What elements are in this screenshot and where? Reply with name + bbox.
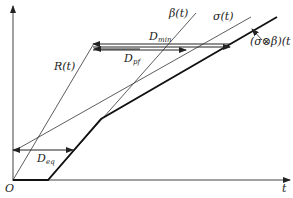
label-beta: β(t)	[168, 7, 188, 20]
label-sigma: σ(t)	[213, 10, 234, 23]
label-convolution: (σ⊗β)(t	[250, 35, 291, 48]
label-d-pf: D pf	[123, 52, 141, 66]
svg-text:D: D	[36, 152, 46, 165]
svg-text:pf: pf	[133, 58, 141, 66]
x-axis-label: t	[282, 182, 287, 195]
svg-text:eq: eq	[46, 158, 55, 166]
curve-sigma	[14, 17, 251, 151]
curve-convolution	[13, 17, 277, 180]
origin-label: O	[5, 182, 14, 195]
svg-text:min: min	[158, 36, 172, 44]
label-d-eq: D eq	[36, 152, 55, 166]
label-d-min: D min	[148, 30, 172, 44]
label-r: R(t)	[53, 60, 75, 73]
svg-text:D: D	[148, 30, 158, 43]
diagram-canvas: R(t) β(t) σ(t) (σ⊗β)(t D min D pf D eq O…	[0, 0, 293, 198]
svg-text:D: D	[123, 52, 133, 65]
